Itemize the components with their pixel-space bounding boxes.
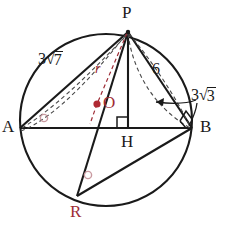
point-label-h: H: [121, 133, 133, 150]
segment-ap: [20, 32, 128, 128]
coefficient-ap: 3: [38, 50, 46, 67]
geometry-diagram: P A B H O R 3√7 6 3√3 r: [0, 0, 234, 232]
radical-expression-ap: 3√7: [38, 50, 63, 67]
point-label-a: A: [2, 118, 14, 135]
center-point-o: [93, 100, 100, 107]
angle-mark-r: [84, 171, 91, 178]
radical-expression-ph: 3√3: [191, 86, 216, 103]
leader-arrow-head: [156, 98, 164, 106]
length-label-ph: 3√3: [191, 86, 216, 103]
geometry-canvas: [0, 0, 234, 232]
length-label-pb: 6: [152, 61, 160, 77]
coefficient-ph: 3: [191, 86, 199, 103]
point-label-p: P: [122, 4, 131, 21]
vertex-point-p: [126, 30, 130, 34]
dashed-guide-ph: [128, 34, 190, 128]
length-label-radius: r: [95, 62, 100, 76]
point-label-r: R: [70, 203, 81, 220]
length-label-ap: 3√7: [38, 50, 63, 67]
point-label-b: B: [200, 118, 211, 135]
radicand-ph: 3: [207, 87, 216, 104]
point-label-o: O: [103, 94, 115, 111]
radicand-ap: 7: [54, 51, 63, 68]
right-angle-mark-h: [117, 117, 128, 128]
angle-mark-a: [40, 114, 47, 121]
